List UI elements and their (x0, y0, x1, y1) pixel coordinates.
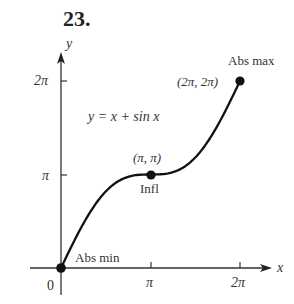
inflection-coord-label: (π, π) (133, 150, 161, 165)
origin-label: 0 (47, 278, 54, 293)
equation-label: y = x + sin x (86, 109, 160, 124)
point-abs-min (56, 263, 66, 273)
x-axis-label: x (276, 260, 284, 275)
y-axis-label: y (64, 36, 73, 51)
x-tick-2pi-label: 2π (231, 275, 246, 290)
x-tick-pi-label: π (146, 275, 154, 290)
inflection-label: Infl (140, 181, 159, 196)
point-inflection (146, 170, 155, 179)
y-tick-pi-label: π (42, 168, 50, 183)
abs-max-coord-label: (2π, 2π) (177, 74, 218, 89)
abs-max-label: Abs max (228, 53, 275, 68)
point-abs-max (235, 76, 244, 85)
abs-min-label: Abs min (75, 250, 120, 265)
chart: y x 2π π 0 π 2π y = x + sin x Abs min (π… (0, 0, 294, 304)
y-tick-2pi-label: 2π (34, 73, 49, 88)
